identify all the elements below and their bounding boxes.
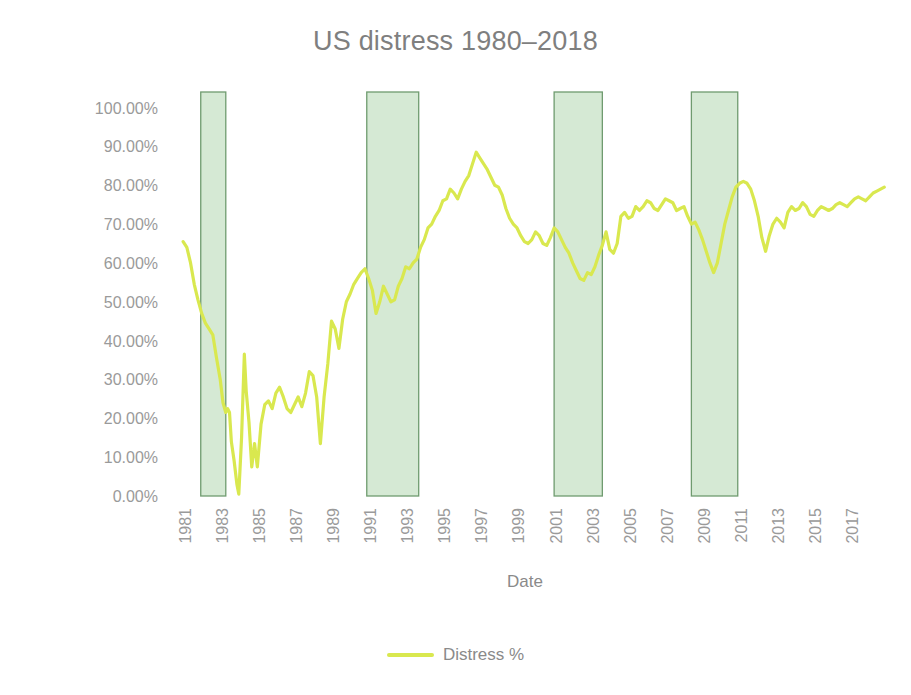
y-tick-label: 80.00%: [104, 177, 158, 194]
y-tick-label: 100.00%: [95, 100, 158, 117]
x-tick-label: 2015: [807, 508, 824, 544]
x-tick-label: 2005: [622, 508, 639, 544]
y-tick-label: 30.00%: [104, 371, 158, 388]
x-tick-label: 2007: [659, 508, 676, 544]
series-layer: [183, 152, 884, 494]
legend-swatch-distress: [387, 653, 434, 657]
x-tick-label: 2001: [548, 508, 565, 544]
y-tick-label: 50.00%: [104, 294, 158, 311]
x-tick-label: 1999: [510, 508, 527, 544]
recession-band-3: [554, 92, 602, 496]
x-tick-label: 1987: [288, 508, 305, 544]
y-tick-label: 0.00%: [113, 488, 158, 505]
y-tick-label: 90.00%: [104, 138, 158, 155]
x-tick-label: 1997: [473, 508, 490, 544]
x-tick-label: 1995: [436, 508, 453, 544]
recession-bands-layer: [201, 92, 738, 496]
x-tick-label: 1991: [362, 508, 379, 544]
x-tick-label: 1985: [251, 508, 268, 544]
y-tick-label: 20.00%: [104, 410, 158, 427]
y-tick-label: 40.00%: [104, 333, 158, 350]
x-tick-label: 1983: [214, 508, 231, 544]
chart-legend: Distress %: [0, 645, 911, 665]
x-tick-label: 2013: [770, 508, 787, 544]
legend-label-distress: Distress %: [443, 645, 524, 665]
chart-figure: US distress 1980–2018 Distress % Date 10…: [0, 0, 911, 695]
plot-area: 100.00%90.00%80.00%70.00%60.00%50.00%40.…: [0, 0, 911, 640]
y-tick-label: 10.00%: [104, 449, 158, 466]
recession-band-1: [201, 92, 226, 496]
y-axis-ticks: 100.00%90.00%80.00%70.00%60.00%50.00%40.…: [95, 100, 158, 505]
x-tick-label: 1981: [177, 508, 194, 544]
x-tick-label: 2003: [585, 508, 602, 544]
x-axis-ticks: 1981198319851987198919911993199519971999…: [177, 508, 862, 544]
y-tick-label: 60.00%: [104, 255, 158, 272]
x-tick-label: 2017: [844, 508, 861, 544]
recession-band-4: [691, 92, 737, 496]
x-tick-label: 2011: [733, 508, 750, 543]
x-tick-label: 1989: [325, 508, 342, 544]
chart-title: US distress 1980–2018: [0, 26, 911, 57]
y-tick-label: 70.00%: [104, 216, 158, 233]
series-line-distress: [183, 152, 884, 494]
x-axis-title: Date: [160, 572, 890, 592]
x-tick-label: 2009: [696, 508, 713, 544]
x-tick-label: 1993: [399, 508, 416, 544]
